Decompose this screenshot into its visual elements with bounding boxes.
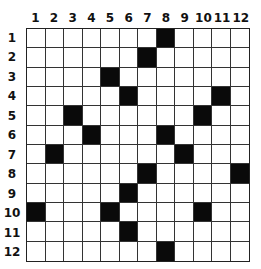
grid-cell-empty[interactable] — [64, 203, 83, 222]
grid-cell-empty[interactable] — [64, 29, 83, 48]
grid-cell-empty[interactable] — [83, 29, 102, 48]
grid-cell-empty[interactable] — [231, 87, 250, 106]
grid-cell-empty[interactable] — [231, 203, 250, 222]
grid-cell-empty[interactable] — [120, 164, 139, 183]
grid-cell-empty[interactable] — [46, 126, 65, 145]
grid-cell-empty[interactable] — [101, 106, 120, 125]
grid-cell-empty[interactable] — [27, 126, 46, 145]
grid-cell-empty[interactable] — [64, 184, 83, 203]
grid-cell-empty[interactable] — [83, 48, 102, 67]
grid-cell-empty[interactable] — [175, 242, 194, 261]
grid-cell-empty[interactable] — [231, 48, 250, 67]
grid-cell-empty[interactable] — [46, 106, 65, 125]
grid-cell-empty[interactable] — [64, 145, 83, 164]
grid-cell-empty[interactable] — [212, 145, 231, 164]
grid-cell-empty[interactable] — [138, 87, 157, 106]
grid-cell-empty[interactable] — [120, 29, 139, 48]
grid-cell-empty[interactable] — [46, 68, 65, 87]
grid-cell-empty[interactable] — [27, 68, 46, 87]
grid-cell-filled[interactable] — [64, 106, 83, 125]
grid-cell-empty[interactable] — [64, 126, 83, 145]
grid-cell-empty[interactable] — [27, 184, 46, 203]
grid-cell-empty[interactable] — [175, 106, 194, 125]
grid-cell-empty[interactable] — [101, 87, 120, 106]
grid-cell-empty[interactable] — [194, 222, 213, 241]
grid-cell-empty[interactable] — [138, 184, 157, 203]
grid-cell-empty[interactable] — [212, 68, 231, 87]
grid-cell-filled[interactable] — [194, 106, 213, 125]
grid-cell-empty[interactable] — [138, 29, 157, 48]
grid-cell-empty[interactable] — [101, 222, 120, 241]
grid-cell-empty[interactable] — [83, 68, 102, 87]
grid-cell-filled[interactable] — [157, 126, 176, 145]
grid-cell-empty[interactable] — [231, 68, 250, 87]
grid-cell-empty[interactable] — [231, 184, 250, 203]
grid-cell-empty[interactable] — [83, 242, 102, 261]
grid-cell-filled[interactable] — [120, 184, 139, 203]
grid-cell-empty[interactable] — [27, 87, 46, 106]
grid-cell-empty[interactable] — [138, 106, 157, 125]
grid-cell-empty[interactable] — [101, 126, 120, 145]
grid-cell-empty[interactable] — [157, 203, 176, 222]
grid-cell-empty[interactable] — [175, 87, 194, 106]
grid-cell-empty[interactable] — [212, 184, 231, 203]
grid-cell-empty[interactable] — [46, 184, 65, 203]
grid-cell-empty[interactable] — [231, 106, 250, 125]
grid-cell-empty[interactable] — [138, 145, 157, 164]
grid-cell-empty[interactable] — [64, 87, 83, 106]
grid-cell-filled[interactable] — [175, 145, 194, 164]
grid-cell-empty[interactable] — [231, 145, 250, 164]
grid-cell-empty[interactable] — [83, 87, 102, 106]
grid-cell-filled[interactable] — [157, 29, 176, 48]
grid-cell-filled[interactable] — [101, 68, 120, 87]
grid-cell-empty[interactable] — [157, 87, 176, 106]
grid-cell-filled[interactable] — [101, 203, 120, 222]
grid-cell-empty[interactable] — [175, 29, 194, 48]
grid-cell-empty[interactable] — [27, 145, 46, 164]
grid-cell-empty[interactable] — [46, 242, 65, 261]
grid-cell-empty[interactable] — [194, 87, 213, 106]
grid-cell-empty[interactable] — [138, 242, 157, 261]
grid-cell-empty[interactable] — [157, 48, 176, 67]
grid-cell-empty[interactable] — [194, 68, 213, 87]
grid-cell-filled[interactable] — [120, 222, 139, 241]
grid-cell-empty[interactable] — [212, 126, 231, 145]
grid-cell-empty[interactable] — [101, 145, 120, 164]
grid-cell-empty[interactable] — [175, 203, 194, 222]
grid-cell-empty[interactable] — [157, 68, 176, 87]
grid-cell-empty[interactable] — [46, 48, 65, 67]
grid-cell-empty[interactable] — [46, 164, 65, 183]
grid-cell-empty[interactable] — [175, 184, 194, 203]
grid-cell-empty[interactable] — [101, 29, 120, 48]
grid-cell-empty[interactable] — [101, 184, 120, 203]
grid-cell-empty[interactable] — [175, 126, 194, 145]
grid-cell-empty[interactable] — [194, 242, 213, 261]
grid-cell-empty[interactable] — [138, 126, 157, 145]
grid-cell-empty[interactable] — [64, 222, 83, 241]
grid-cell-filled[interactable] — [83, 126, 102, 145]
grid-cell-empty[interactable] — [157, 164, 176, 183]
grid-cell-empty[interactable] — [83, 145, 102, 164]
grid-cell-filled[interactable] — [157, 242, 176, 261]
grid-cell-empty[interactable] — [212, 29, 231, 48]
grid-cell-filled[interactable] — [27, 203, 46, 222]
grid-cell-empty[interactable] — [231, 222, 250, 241]
grid-cell-filled[interactable] — [194, 203, 213, 222]
grid-cell-empty[interactable] — [175, 164, 194, 183]
grid-cell-empty[interactable] — [83, 184, 102, 203]
grid-cell-empty[interactable] — [83, 106, 102, 125]
grid-cell-empty[interactable] — [157, 222, 176, 241]
grid-cell-empty[interactable] — [120, 145, 139, 164]
grid-cell-empty[interactable] — [83, 164, 102, 183]
grid-cell-empty[interactable] — [101, 242, 120, 261]
grid-cell-empty[interactable] — [212, 242, 231, 261]
grid-cell-empty[interactable] — [194, 126, 213, 145]
grid-cell-empty[interactable] — [138, 203, 157, 222]
grid-cell-empty[interactable] — [46, 203, 65, 222]
grid-cell-filled[interactable] — [46, 145, 65, 164]
grid-cell-empty[interactable] — [157, 106, 176, 125]
grid-cell-empty[interactable] — [231, 126, 250, 145]
grid-cell-empty[interactable] — [212, 222, 231, 241]
grid-cell-empty[interactable] — [194, 184, 213, 203]
grid-cell-empty[interactable] — [212, 164, 231, 183]
